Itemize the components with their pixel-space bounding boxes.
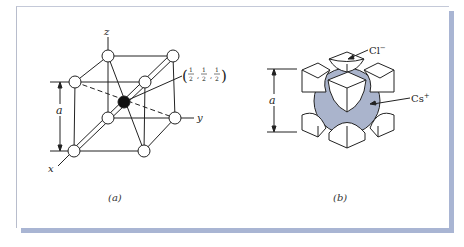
body-center-atom: [118, 96, 130, 108]
corner-atom: [139, 76, 151, 88]
corner-atom: [69, 76, 81, 88]
z-axis-label: z: [103, 26, 110, 37]
corner-atom: [102, 112, 114, 124]
cube-edge: [74, 82, 75, 151]
dimension-label-a: a: [56, 104, 63, 117]
dimension-arrow-down: [58, 145, 62, 151]
comma: ,: [210, 72, 212, 80]
corner-atom: [169, 112, 181, 124]
cube-edge: [173, 56, 175, 118]
panel-b-cscl-cell: [267, 50, 410, 148]
caption-a: (a): [108, 192, 122, 203]
dimension-label-a: a: [269, 94, 276, 107]
dimension-arrow-up: [272, 69, 276, 75]
x-axis-label: x: [48, 163, 54, 174]
frac-num: 1: [202, 66, 206, 73]
y-axis-label: y: [196, 112, 203, 123]
x-axis-line: [58, 155, 69, 166]
caption-a-text: (a): [108, 192, 122, 203]
frac-den: 2: [202, 75, 206, 82]
corner-atom: [138, 145, 150, 157]
center-coordinate-label: ( 1 2 , 1 2 , 1 2 ): [182, 66, 227, 85]
open-paren: (: [182, 67, 188, 85]
cl-anion-label: Cl−: [369, 44, 386, 56]
cs-cation-label: Cs+: [411, 92, 430, 104]
caption-b: (b): [333, 192, 347, 203]
frac-den: 2: [215, 75, 219, 82]
frac-num: 1: [189, 66, 193, 73]
cube-edge: [144, 118, 175, 151]
corner-atom: [68, 145, 80, 157]
frac-num: 1: [215, 66, 219, 73]
caption-b-text: (b): [333, 192, 347, 203]
comma: ,: [197, 72, 199, 80]
dimension-arrow-down: [272, 126, 276, 132]
corner-atom: [167, 50, 179, 62]
figure-drawing: z y x a ( 1 2 , 1 2 , 1 2 ): [0, 0, 464, 247]
dimension-arrow-up: [58, 82, 62, 88]
frac-den: 2: [189, 75, 193, 82]
corner-atom: [102, 50, 114, 62]
close-paren: ): [221, 67, 227, 85]
panel-a-atoms: [68, 50, 181, 157]
